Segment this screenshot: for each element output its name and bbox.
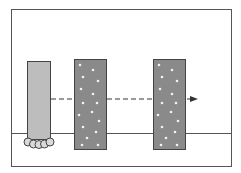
speckled-panel-1 [75,60,107,150]
foot-circle [46,138,54,146]
column [28,62,51,140]
diagram-canvas [0,0,241,173]
speckled-panel-2 [154,60,186,150]
